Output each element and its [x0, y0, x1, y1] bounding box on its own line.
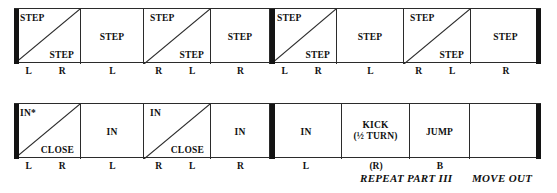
cell-r1-c2[interactable]: STEP [81, 9, 144, 64]
staff-row-1: STEP STEP STEP STEP STEP STEP STEP STEP … [14, 8, 541, 79]
foot-label: R [503, 66, 510, 76]
cell-label: STEP [337, 32, 403, 42]
barline-start-row-1 [14, 9, 19, 64]
foot-label-left: L [26, 161, 32, 171]
foot-label: L [367, 66, 373, 76]
cell-r2-c4[interactable]: IN [211, 104, 270, 159]
cell-label-upper: STEP [277, 13, 302, 23]
cell-label-lower: STEP [49, 50, 74, 60]
cell-r2-c1[interactable]: IN* CLOSE [14, 104, 81, 159]
foot-label: L [109, 161, 115, 171]
barline-middle-row-2 [270, 104, 275, 159]
caption-move-out: MOVE OUT [472, 172, 532, 184]
foot-label: R [237, 66, 244, 76]
barline-middle-row-1 [270, 9, 275, 64]
foot-label: R [237, 161, 244, 171]
foot-label: B [437, 161, 443, 171]
staff-row-2: IN* CLOSE IN IN CLOSE IN IN KICK (½ TUR [14, 103, 541, 174]
cell-label: KICK (½ TURN) [342, 120, 409, 143]
foot-r1-c5: L R [270, 63, 337, 79]
measure-boxes-row-1: STEP STEP STEP STEP STEP STEP STEP STEP … [14, 8, 541, 63]
cell-r2-c5[interactable]: IN [270, 104, 342, 159]
cell-r1-c4[interactable]: STEP [211, 9, 270, 64]
foot-r2-c3: R L [144, 158, 211, 174]
barline-start-row-2 [14, 104, 19, 159]
cell-label: STEP [211, 32, 269, 42]
caption-repeat-part: REPEAT PART III [360, 172, 452, 184]
cell-label-line1: KICK [362, 120, 388, 130]
cell-r1-c5[interactable]: STEP STEP [270, 9, 337, 64]
cell-label-line2: (½ TURN) [342, 132, 409, 144]
foot-r2-c1: L R [14, 158, 81, 174]
cell-label-upper: IN [150, 108, 161, 118]
measure-boxes-row-2: IN* CLOSE IN IN CLOSE IN IN KICK (½ TUR [14, 103, 541, 158]
barline-end-row-1 [536, 9, 541, 64]
foot-r2-c4: R [211, 158, 270, 174]
foot-label-left: L [282, 66, 288, 76]
foot-label-right: L [189, 161, 195, 171]
cell-label: STEP [471, 32, 540, 42]
cell-r1-c6[interactable]: STEP [337, 9, 404, 64]
foot-r1-c4: R [211, 63, 270, 79]
foot-label: (R) [369, 161, 382, 171]
foot-label: L [303, 161, 309, 171]
notation-sheet: STEP STEP STEP STEP STEP STEP STEP STEP … [0, 0, 557, 193]
cell-label: JUMP [410, 127, 469, 137]
cell-label-upper: IN* [20, 108, 36, 118]
cell-label: STEP [81, 32, 143, 42]
foot-r1-c3: R L [144, 63, 211, 79]
foot-r1-c1: L R [14, 63, 81, 79]
foot-label-left: L [26, 66, 32, 76]
foot-r1-c8: R [471, 63, 541, 79]
foot-label-left: R [415, 66, 422, 76]
foot-label-right: L [189, 66, 195, 76]
foot-label: L [109, 66, 115, 76]
foot-label-right: R [315, 66, 322, 76]
cell-label: IN [211, 127, 269, 137]
foot-r1-c2: L [81, 63, 144, 79]
cell-label-lower: STEP [305, 50, 330, 60]
cell-r2-c2[interactable]: IN [81, 104, 144, 159]
foot-r2-c2: L [81, 158, 144, 174]
foot-labels-row-1: L R L R L R L R L R L [14, 63, 541, 79]
foot-r1-c6: L [337, 63, 404, 79]
foot-label-right: L [449, 66, 455, 76]
cell-label: IN [271, 127, 341, 137]
cell-label-lower: CLOSE [171, 145, 204, 155]
cell-label-lower: STEP [439, 50, 464, 60]
cell-r1-c7[interactable]: STEP STEP [404, 9, 471, 64]
cell-r2-c7[interactable]: JUMP [410, 104, 470, 159]
foot-label-right: R [59, 66, 66, 76]
cell-label-lower: CLOSE [41, 145, 74, 155]
cell-label-upper: STEP [150, 13, 175, 23]
cell-label: IN [81, 127, 143, 137]
foot-labels-row-2: L R L R L R L (R) B [14, 158, 541, 174]
cell-label-upper: STEP [20, 13, 45, 23]
cell-r2-c8[interactable] [470, 104, 541, 159]
foot-r2-c5: L [270, 158, 342, 174]
foot-label-right: R [59, 161, 66, 171]
cell-label-lower: STEP [179, 50, 204, 60]
foot-label-left: R [155, 161, 162, 171]
foot-label-left: R [155, 66, 162, 76]
barline-end-row-2 [536, 104, 541, 159]
cell-r1-c3[interactable]: STEP STEP [144, 9, 211, 64]
cell-label-upper: STEP [410, 13, 435, 23]
cell-r1-c1[interactable]: STEP STEP [14, 9, 81, 64]
cell-r1-c8[interactable]: STEP [471, 9, 541, 64]
cell-r2-c6[interactable]: KICK (½ TURN) [342, 104, 410, 159]
foot-r1-c7: R L [404, 63, 471, 79]
cell-r2-c3[interactable]: IN CLOSE [144, 104, 211, 159]
